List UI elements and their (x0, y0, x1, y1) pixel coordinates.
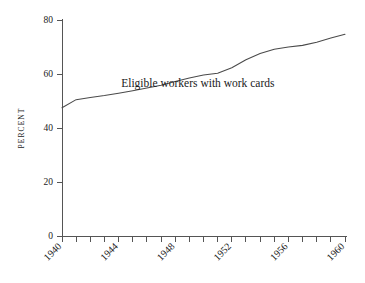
y-tick-label: 40 (44, 123, 54, 133)
y-tick-label: 20 (44, 177, 54, 187)
chart-annotation-group: Eligible workers with work cards (121, 77, 275, 90)
y-axis-title-group: PERCENT (17, 107, 26, 148)
y-tick-label: 0 (48, 231, 53, 241)
y-axis-title: PERCENT (17, 107, 26, 148)
y-tick-label: 60 (44, 69, 54, 79)
series-annotation-label: Eligible workers with work cards (121, 77, 275, 90)
chart-container: 020406080 194019441948195219561960 Eligi… (0, 0, 365, 283)
y-tick-label: 80 (44, 15, 54, 25)
line-chart: 020406080 194019441948195219561960 Eligi… (0, 0, 365, 283)
